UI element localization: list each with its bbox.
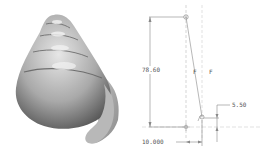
sketch-diagram: 78.60 F F 5.50 10.000 (132, 0, 263, 155)
dimension-sketch: 78.60 F F 5.50 10.000 (132, 0, 263, 155)
height-dimension: 78.60 (142, 66, 160, 73)
shell-3d-icon (0, 0, 132, 155)
offset-bottom-dimension: 10.000 (142, 138, 164, 145)
label-f1: F (193, 68, 197, 75)
shell-render (0, 0, 132, 155)
label-f2: F (209, 68, 213, 75)
offset-right-dimension: 5.50 (232, 101, 247, 108)
